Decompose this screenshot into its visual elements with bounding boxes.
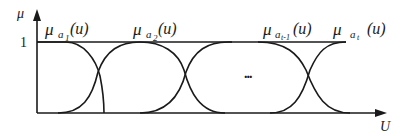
svg-text:a: a (58, 28, 64, 40)
svg-text:(u): (u) (293, 20, 312, 38)
curve-a2-left (58, 42, 140, 113)
curve-at-1 (258, 42, 350, 113)
x-axis-arrow-icon (375, 109, 387, 117)
svg-text:(u): (u) (70, 20, 89, 38)
curve-a2-right (140, 42, 225, 113)
y-tick-label: 1 (20, 35, 27, 50)
membership-curves (37, 42, 350, 113)
svg-text:μ: μ (262, 20, 272, 39)
label-mu-a2: μ a 2 (u) (132, 20, 177, 43)
y-axis (33, 9, 41, 113)
curve-a1 (37, 42, 104, 113)
label-mu-at-1: μ a t-1 (u) (262, 20, 312, 42)
curve-a3-left (140, 42, 228, 113)
membership-function-diagram: 1 μ U ... μ a 1 (u) μ a 2 (u) μ a t-1 (u… (0, 0, 402, 136)
svg-text:μ: μ (132, 20, 142, 39)
label-mu-a1: μ a 1 (u) (44, 20, 89, 43)
x-axis-label: U (380, 119, 391, 134)
svg-text:t: t (357, 33, 360, 42)
y-axis-arrow-icon (33, 9, 41, 21)
ellipsis: ... (244, 66, 252, 81)
svg-text:μ: μ (332, 20, 342, 39)
svg-text:a: a (146, 28, 152, 40)
label-mu-at: μ a t (u) (332, 20, 386, 42)
svg-text:a: a (350, 28, 356, 40)
svg-text:(u): (u) (367, 20, 386, 38)
svg-text:μ: μ (44, 20, 54, 39)
svg-text:(u): (u) (158, 20, 177, 38)
svg-text:t-1: t-1 (281, 33, 290, 42)
y-axis-label: μ (16, 6, 24, 21)
svg-text:1: 1 (65, 33, 70, 43)
curve-at (270, 42, 346, 113)
